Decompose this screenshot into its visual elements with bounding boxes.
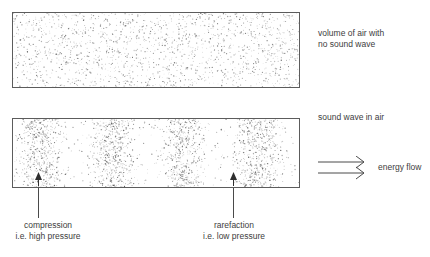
sound-wave-box [12,118,300,188]
energy-flow-arrow-icon [316,156,376,182]
compression-pointer-arrow-icon [34,172,43,186]
volume-of-air-box [12,12,300,88]
sound-wave-label: sound wave in air [318,112,384,123]
sound-wave-particle-field [13,119,299,187]
rarefaction-annotation: rarefaction i.e. low pressure [186,220,282,242]
diagram-canvas: volume of air with no sound wave sound w… [0,0,430,257]
volume-of-air-label: volume of air with no sound wave [318,28,384,50]
compression-annotation: compression i.e. high pressure [0,220,96,242]
uniform-particle-field [13,13,299,87]
rarefaction-pointer-arrow-icon [229,172,238,186]
rarefaction-leader-line [233,188,234,218]
compression-leader-line [38,188,39,218]
energy-flow-label: energy flow [378,162,421,173]
